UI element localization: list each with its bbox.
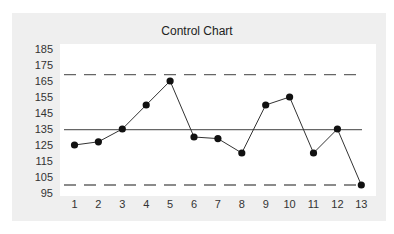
data-point-marker <box>286 93 293 100</box>
y-tick-label: 125 <box>35 139 53 151</box>
data-point-marker <box>71 141 78 148</box>
x-tick-label: 5 <box>167 198 173 210</box>
data-point-marker <box>214 135 221 142</box>
x-tick-label: 8 <box>239 198 245 210</box>
x-tick-label: 11 <box>308 198 319 210</box>
x-tick-label: 1 <box>71 198 77 210</box>
x-tick-label: 13 <box>355 198 367 210</box>
y-tick-label: 115 <box>35 155 53 167</box>
x-tick-label: 7 <box>215 198 221 210</box>
x-tick-label: 4 <box>143 198 149 210</box>
y-tick-label: 145 <box>35 107 53 119</box>
data-point-marker <box>262 101 269 108</box>
y-tick-label: 155 <box>35 91 53 103</box>
y-axis-ticks: 95105115125135145155165175185 <box>35 43 53 199</box>
x-tick-label: 10 <box>283 198 295 210</box>
y-tick-label: 135 <box>35 123 53 135</box>
y-tick-label: 185 <box>35 43 53 55</box>
y-tick-label: 95 <box>41 187 53 199</box>
data-point-marker <box>334 125 341 132</box>
data-point-marker <box>310 149 317 156</box>
x-tick-label: 12 <box>331 198 343 210</box>
y-tick-label: 165 <box>35 75 53 87</box>
y-tick-label: 175 <box>35 59 53 71</box>
x-tick-label: 2 <box>95 198 101 210</box>
x-tick-label: 9 <box>263 198 269 210</box>
data-point-marker <box>119 125 126 132</box>
data-point-marker <box>143 101 150 108</box>
data-point-marker <box>167 77 174 84</box>
x-tick-label: 6 <box>191 198 197 210</box>
data-point-marker <box>190 133 197 140</box>
reference-lines <box>64 75 362 185</box>
data-point-marker <box>358 181 365 188</box>
y-tick-label: 105 <box>35 171 53 183</box>
data-series <box>71 77 365 188</box>
data-point-marker <box>95 138 102 145</box>
x-tick-label: 3 <box>119 198 125 210</box>
control-chart: 95105115125135145155165175185 1234567891… <box>0 0 394 234</box>
x-axis-ticks: 12345678910111213 <box>71 198 367 210</box>
data-point-marker <box>238 149 245 156</box>
series-line <box>75 81 362 185</box>
